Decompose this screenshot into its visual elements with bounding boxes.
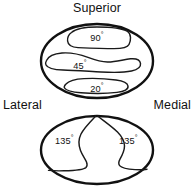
diagram-canvas <box>0 0 194 189</box>
degree-symbol-icon: ° <box>84 59 87 66</box>
angle-90-value: 90 <box>90 33 100 43</box>
degree-symbol-icon: ° <box>101 31 104 38</box>
lower-ellipse-group <box>41 116 153 184</box>
label-angle-135-lateral: 135° <box>55 137 74 146</box>
angle-20-value: 20 <box>90 84 100 94</box>
angle-135-lateral-value: 135 <box>55 136 71 146</box>
label-superior: Superior <box>0 2 194 15</box>
anatomical-angle-diagram: Superior Lateral Medial 90° 45° 20° 135°… <box>0 0 194 189</box>
degree-symbol-icon: ° <box>71 134 74 141</box>
label-angle-90: 90° <box>0 34 194 43</box>
angle-45-value: 45 <box>73 61 83 71</box>
label-lateral: Lateral <box>3 99 42 112</box>
label-angle-135-medial: 135° <box>119 137 138 146</box>
label-angle-45: 45° <box>0 62 160 71</box>
degree-symbol-icon: ° <box>135 134 138 141</box>
degree-symbol-icon: ° <box>101 82 104 89</box>
label-medial: Medial <box>154 99 191 112</box>
label-angle-20: 20° <box>0 85 194 94</box>
angle-135-medial-value: 135 <box>119 136 135 146</box>
lower-ellipse-outline <box>41 116 153 184</box>
